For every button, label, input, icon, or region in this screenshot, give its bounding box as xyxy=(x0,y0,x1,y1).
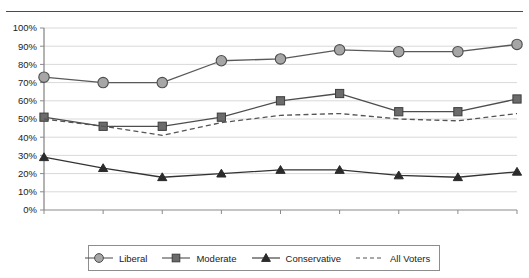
legend-item-all-voters: All Voters xyxy=(355,251,444,265)
data-point-marker xyxy=(395,108,403,116)
data-point-marker xyxy=(276,97,284,105)
y-tick-label: 40% xyxy=(18,132,38,143)
series-line-all-voters xyxy=(44,114,517,136)
x-tick-label: 2004 xyxy=(447,217,468,218)
legend-label-conservative: Conservative xyxy=(281,253,355,264)
top-divider-rule xyxy=(6,11,523,12)
legend-item-conservative: Conservative xyxy=(251,251,355,265)
data-point-marker xyxy=(512,39,522,49)
data-point-marker xyxy=(336,89,344,97)
data-point-marker xyxy=(40,113,48,121)
line-chart-svg: 0%10%20%30%40%50%60%70%80%90%100% 197619… xyxy=(0,18,529,218)
x-tick-label: 1992 xyxy=(270,217,291,218)
data-point-marker xyxy=(334,45,344,55)
legend-label-moderate: Moderate xyxy=(191,253,250,264)
chart-page: 0%10%20%30%40%50%60%70%80%90%100% 197619… xyxy=(0,0,529,278)
y-tick-label: 10% xyxy=(18,186,38,197)
y-tick-label: 80% xyxy=(18,59,38,70)
y-tick-label: 50% xyxy=(18,113,38,124)
data-point-marker xyxy=(454,108,462,116)
data-point-marker xyxy=(216,56,226,66)
legend-label-all-voters: All Voters xyxy=(385,253,444,264)
data-point-marker xyxy=(513,95,521,103)
data-point-marker xyxy=(275,54,285,64)
data-point-marker xyxy=(512,167,521,175)
x-tick-label: 1984 xyxy=(152,217,173,218)
y-tick-label: 90% xyxy=(18,41,38,52)
data-point-marker xyxy=(394,46,404,56)
data-point-marker xyxy=(217,113,225,121)
chart-legend: Liberal Moderate Conservative All Voters xyxy=(88,245,440,271)
y-tick-label: 0% xyxy=(23,204,37,215)
y-tick-label: 20% xyxy=(18,168,38,179)
data-point-marker xyxy=(158,122,166,130)
x-tick-label: 2000 xyxy=(388,217,409,218)
dashed-line-marker-icon xyxy=(355,251,385,265)
square-marker-icon xyxy=(161,251,191,265)
data-series-group xyxy=(39,39,522,180)
x-axis-ticks: 197619801984198819921996200020042008 xyxy=(33,210,527,218)
x-tick-label: 1996 xyxy=(329,217,350,218)
x-tick-label: 1988 xyxy=(211,217,232,218)
x-tick-label: 1976 xyxy=(33,217,54,218)
legend-item-liberal: Liberal xyxy=(84,251,162,265)
x-tick-label: 1980 xyxy=(93,217,114,218)
circle-marker-icon xyxy=(84,251,114,265)
data-point-marker xyxy=(98,77,108,87)
plot-area: 0%10%20%30%40%50%60%70%80%90%100% 197619… xyxy=(0,18,529,218)
legend-label-liberal: Liberal xyxy=(114,253,162,264)
y-axis-ticks: 0%10%20%30%40%50%60%70%80%90%100% xyxy=(13,22,44,215)
y-tick-label: 60% xyxy=(18,95,38,106)
triangle-marker-icon xyxy=(251,251,281,265)
y-tick-label: 30% xyxy=(18,150,38,161)
data-point-marker xyxy=(39,153,48,161)
y-tick-label: 100% xyxy=(13,22,38,33)
y-tick-label: 70% xyxy=(18,77,38,88)
legend-item-moderate: Moderate xyxy=(161,251,250,265)
data-point-marker xyxy=(157,77,167,87)
x-tick-label: 2008 xyxy=(506,217,527,218)
data-point-marker xyxy=(453,46,463,56)
data-point-marker xyxy=(39,72,49,82)
